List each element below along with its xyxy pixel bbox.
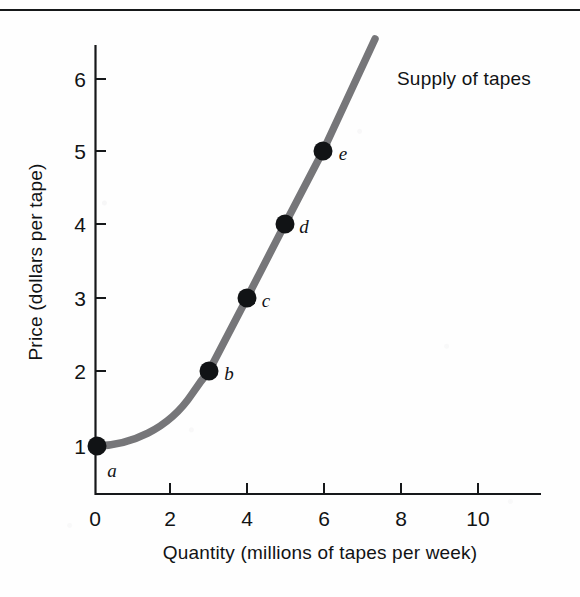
point-label-d: d: [299, 216, 309, 238]
data-point-c: [238, 289, 257, 308]
supply-curve: [97, 39, 375, 446]
data-point-markers: [88, 142, 333, 456]
x-tick-label-6: 6: [318, 508, 330, 529]
point-label-c: c: [262, 290, 270, 312]
y-tick-label-1: 1: [74, 436, 86, 457]
point-label-b: b: [224, 363, 234, 385]
y-axis-ticks: [95, 79, 106, 446]
data-point-e: [314, 142, 333, 161]
data-point-a: [88, 437, 107, 456]
x-tick-label-2: 2: [164, 508, 176, 529]
y-tick-label-5: 5: [74, 141, 86, 162]
y-tick-label-6: 6: [74, 69, 86, 90]
data-point-d: [276, 215, 295, 234]
x-tick-label-10: 10: [466, 508, 489, 529]
point-label-a: a: [107, 460, 117, 482]
x-axis-ticks: [170, 483, 478, 494]
y-tick-label-2: 2: [74, 361, 86, 382]
data-point-b: [200, 362, 219, 381]
x-tick-label-0: 0: [89, 508, 101, 529]
supply-curve-figure: 1 2 3 4 5 6 0 2 4 6 8 10 Quantity (milli…: [0, 0, 580, 597]
x-tick-label-8: 8: [395, 508, 407, 529]
y-tick-label-4: 4: [74, 214, 86, 235]
y-axis-title: Price (dollars per tape): [25, 164, 47, 361]
supply-curve-label: Supply of tapes: [397, 68, 531, 90]
x-tick-label-4: 4: [241, 508, 253, 529]
point-label-e: e: [339, 143, 347, 165]
y-tick-label-3: 3: [74, 288, 86, 309]
x-axis-title: Quantity (millions of tapes per week): [163, 542, 478, 564]
